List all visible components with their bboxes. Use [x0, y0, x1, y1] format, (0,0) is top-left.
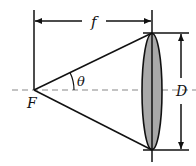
- upper-ray: [34, 33, 152, 90]
- label-theta: θ: [77, 74, 85, 89]
- lower-ray: [34, 90, 152, 150]
- label-F: F: [26, 95, 38, 111]
- angle-arc: [70, 73, 74, 91]
- lens-diagram: f F θ D: [0, 0, 196, 166]
- label-D: D: [175, 83, 187, 99]
- label-f: f: [90, 13, 99, 31]
